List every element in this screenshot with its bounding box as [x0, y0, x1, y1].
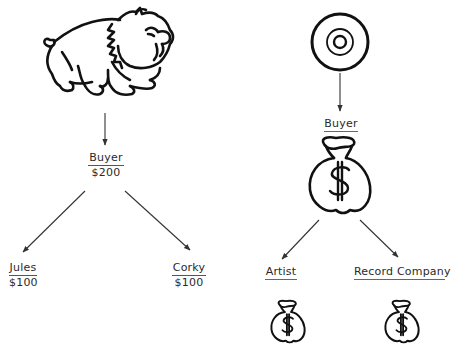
money-bag-icon: [385, 301, 418, 343]
left-buyer-amount: $200: [88, 166, 124, 179]
left-buyer-node: Buyer $200: [88, 152, 124, 179]
jules-label: Jules: [9, 262, 37, 276]
right-buyer-node: Buyer: [324, 118, 358, 132]
left-buyer-label: Buyer: [88, 152, 124, 166]
arrow-to-artist: [282, 220, 319, 259]
record-disc-icon: [312, 14, 368, 70]
jules-node: Jules $100: [9, 262, 37, 289]
artist-node: Artist: [265, 266, 297, 280]
diagram-canvas: [0, 0, 457, 351]
money-bag-icon: [271, 301, 304, 343]
record-company-label: Record Company: [354, 266, 445, 280]
arrow-to-jules: [23, 191, 85, 252]
arrow-to-record-company: [360, 220, 398, 257]
bulldog-icon: [44, 8, 173, 95]
jules-amount: $100: [9, 276, 37, 289]
corky-node: Corky $100: [172, 262, 206, 289]
corky-label: Corky: [172, 262, 206, 276]
arrow-to-corky: [125, 191, 190, 250]
record-company-node: Record Company: [354, 266, 445, 280]
artist-label: Artist: [265, 266, 297, 280]
money-bag-icon: [310, 137, 371, 213]
corky-amount: $100: [172, 276, 206, 289]
right-buyer-label: Buyer: [324, 118, 358, 132]
